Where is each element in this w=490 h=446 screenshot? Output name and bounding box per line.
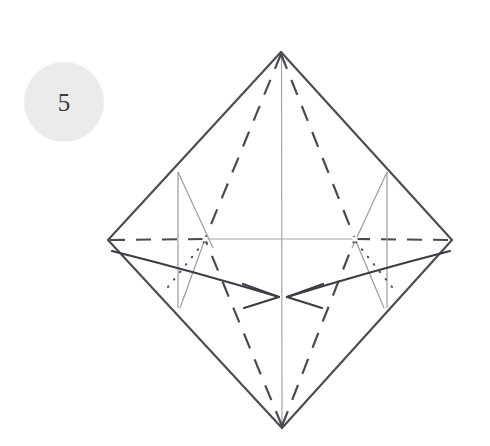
- step-number-badge: 5: [24, 62, 104, 142]
- origami-diagram-page: 5: [0, 0, 490, 446]
- vertical-center-thin-line: [282, 54, 283, 426]
- node-point-left: [202, 236, 207, 241]
- dashed-bottom-to-left-node: [205, 239, 282, 426]
- horizontal-dash-right-segment: [355, 239, 450, 240]
- dotted-hidden-creases: [164, 242, 396, 292]
- thin-diagonal-right-upper: [352, 172, 387, 248]
- dashed-top-to-left-node: [205, 54, 281, 239]
- curved-fold-arrow-left: [112, 251, 279, 308]
- dashed-bottom-to-right-node: [282, 239, 355, 426]
- horizontal-dash-left-segment: [110, 239, 205, 240]
- dashed-diagonals-top-to-nodes: [205, 54, 355, 239]
- thin-diagonal-left-upper: [178, 172, 213, 248]
- outer-diamond-outline: [108, 52, 452, 428]
- curved-fold-arrow-right: [287, 251, 450, 308]
- dashed-diagonals-bottom-to-nodes: [205, 239, 355, 426]
- dashed-top-to-right-node: [281, 54, 355, 239]
- edge-top-right: [281, 52, 452, 240]
- edge-top-left: [108, 52, 281, 240]
- arrow-left-curve: [112, 251, 279, 297]
- node-point-right: [352, 236, 357, 241]
- step-number-label: 5: [58, 90, 71, 115]
